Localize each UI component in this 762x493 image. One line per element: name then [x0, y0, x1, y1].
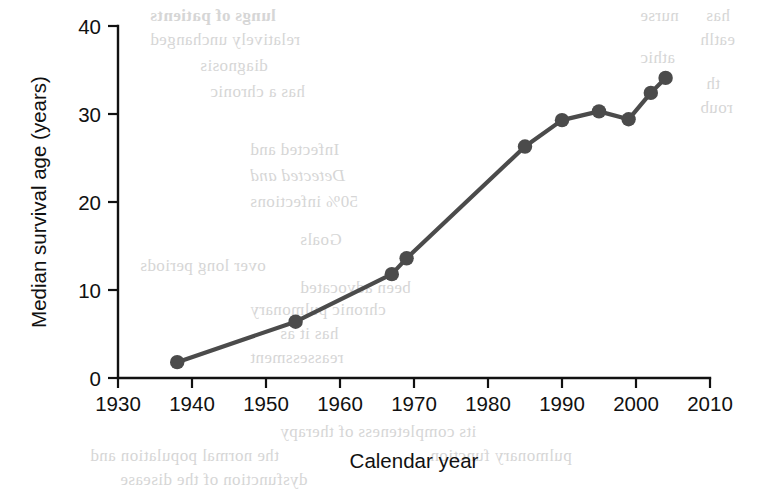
- x-axis-title: Calendar year: [350, 449, 479, 472]
- data-point-marker[interactable]: [170, 355, 184, 369]
- x-tick-label: 1930: [95, 392, 141, 415]
- y-tick-label: 40: [78, 15, 101, 38]
- data-point-marker[interactable]: [555, 113, 569, 127]
- y-tick-label: 30: [78, 103, 101, 126]
- data-point-marker[interactable]: [644, 86, 658, 100]
- x-tick-label: 2010: [687, 392, 733, 415]
- chart-page: lungs of patientsrelatively unchangeddia…: [0, 0, 762, 493]
- data-point-marker[interactable]: [385, 267, 399, 281]
- data-point-marker[interactable]: [621, 112, 635, 126]
- x-tick-label: 1960: [317, 392, 363, 415]
- axes-group: 0102030401930194019501960197019801990200…: [78, 15, 733, 416]
- series-group: [170, 71, 673, 370]
- y-tick-label: 10: [78, 279, 101, 302]
- chart-figure: 0102030401930194019501960197019801990200…: [0, 0, 762, 493]
- y-tick-label: 0: [90, 367, 101, 390]
- x-tick-label: 2000: [613, 392, 659, 415]
- y-tick-label: 20: [78, 191, 101, 214]
- data-point-marker[interactable]: [288, 314, 302, 328]
- x-tick-label: 1970: [391, 392, 437, 415]
- x-tick-label: 1990: [539, 392, 585, 415]
- data-point-marker[interactable]: [592, 104, 606, 118]
- series-line: [177, 78, 665, 362]
- data-point-marker[interactable]: [399, 251, 413, 265]
- y-axis-title: Median survival age (years): [27, 76, 50, 328]
- x-tick-label: 1980: [465, 392, 511, 415]
- data-point-marker[interactable]: [518, 139, 532, 153]
- axis-frame: [118, 26, 710, 378]
- x-tick-label: 1950: [243, 392, 289, 415]
- x-tick-label: 1940: [169, 392, 215, 415]
- data-point-marker[interactable]: [658, 71, 672, 85]
- line-chart-svg: 0102030401930194019501960197019801990200…: [0, 0, 762, 493]
